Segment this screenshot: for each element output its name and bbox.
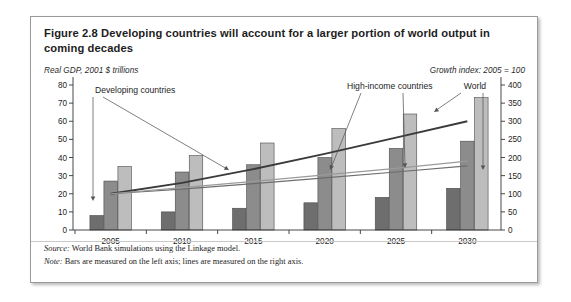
source-label: Source: xyxy=(44,244,70,253)
axis-tick-label: 0 xyxy=(508,226,513,235)
axis-tick-label: 50 xyxy=(508,208,518,217)
figure-footnotes: Source: World Bank simulations using the… xyxy=(44,243,514,268)
axis-tick-label: 150 xyxy=(508,172,522,181)
axis-tick-label: 0 xyxy=(62,226,67,235)
bar-2025-world xyxy=(403,114,417,230)
annotation-label-world: World xyxy=(464,81,487,91)
axis-tick-label: 300 xyxy=(508,117,522,126)
bar-2010-developing-countries xyxy=(161,212,175,230)
footnote-divider xyxy=(31,241,537,242)
axis-tick-label: 40 xyxy=(58,154,68,163)
bar-2010-high-income-countries xyxy=(175,172,189,230)
axis-tick-label: 50 xyxy=(58,135,68,144)
bar-2020-high-income-countries xyxy=(318,158,332,231)
axis-tick-label: 30 xyxy=(58,172,68,181)
source-text: World Bank simulations using the Linkage… xyxy=(70,244,240,253)
axis-tick-label: 80 xyxy=(58,81,68,90)
figure-panel: Figure 2.8 Developing countries will acc… xyxy=(30,16,538,283)
bar-2010-world xyxy=(189,156,203,230)
bar-2005-high-income-countries xyxy=(104,181,118,230)
axis-tick-label: 350 xyxy=(508,99,522,108)
bar-2015-developing-countries xyxy=(233,208,247,230)
annotation-leader-line xyxy=(103,97,227,169)
axis-tick-label: 400 xyxy=(508,81,522,90)
bar-2030-high-income-countries xyxy=(461,141,475,230)
annotation-label-high-income-countries: High-income countries xyxy=(347,81,433,91)
bar-2015-high-income-countries xyxy=(247,165,261,230)
bar-2005-developing-countries xyxy=(90,216,104,231)
annotation-label-developing-countries: Developing countries xyxy=(95,85,175,95)
note-label: Note: xyxy=(44,257,63,266)
axis-tick-label: 250 xyxy=(508,135,522,144)
bar-2025-developing-countries xyxy=(375,197,389,230)
axis-tick-label: 200 xyxy=(508,154,522,163)
axis-tick-label: 10 xyxy=(58,208,68,217)
bar-2020-world xyxy=(332,129,346,231)
source-line: Source: World Bank simulations using the… xyxy=(44,243,514,256)
annotations-group: Developing countriesHigh-income countrie… xyxy=(91,81,487,201)
bar-2030-developing-countries xyxy=(447,188,461,230)
bar-2005-world xyxy=(118,167,132,230)
axis-tick-label: 20 xyxy=(58,190,68,199)
bar-2025-high-income-countries xyxy=(389,148,403,230)
axis-tick-label: 60 xyxy=(58,117,68,126)
bar-2020-developing-countries xyxy=(304,203,318,230)
bars-group xyxy=(90,98,488,230)
bar-2015-world xyxy=(261,143,275,230)
annotation-arrowhead xyxy=(434,107,439,112)
note-text: Bars are measured on the left axis; line… xyxy=(63,257,304,266)
bar-2030-world xyxy=(475,98,489,230)
axis-tick-label: 70 xyxy=(58,99,68,108)
axis-tick-label: 100 xyxy=(508,190,522,199)
annotation-arrowhead xyxy=(91,196,96,201)
note-line: Note: Bars are measured on the left axis… xyxy=(44,256,514,269)
annotation-leader-line xyxy=(435,93,461,111)
